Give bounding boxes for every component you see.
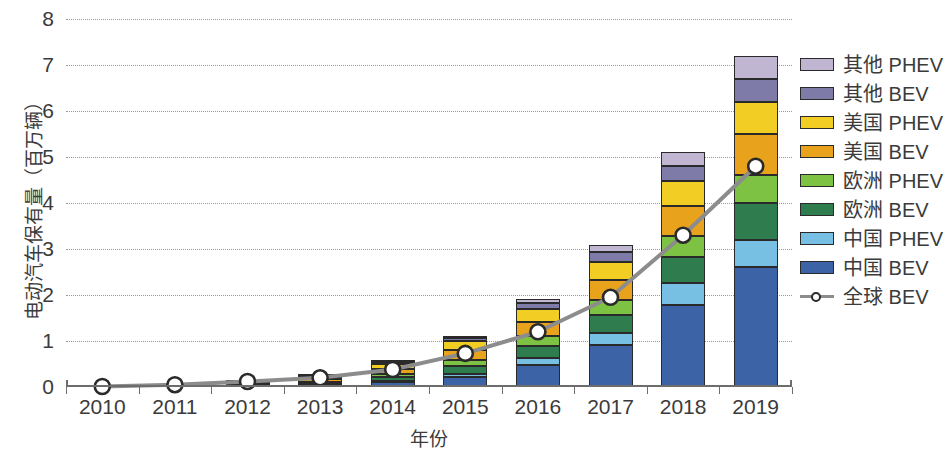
x-axis-tick-label: 2017 (574, 396, 647, 417)
y-axis-tick-label: 6 (14, 100, 54, 121)
legend-color-swatch (800, 203, 834, 216)
y-axis-tick-label: 3 (14, 238, 54, 259)
y-axis-tick-label: 8 (14, 8, 54, 29)
legend-item[interactable]: 其他 BEV (800, 79, 944, 108)
legend-label: 中国 PHEV (843, 229, 943, 249)
line-marker[interactable] (676, 228, 691, 243)
legend-item[interactable]: 欧洲 PHEV (800, 166, 944, 195)
legend-color-swatch (800, 145, 834, 158)
y-axis-tick-label: 5 (14, 146, 54, 167)
line-marker[interactable] (313, 370, 328, 385)
x-axis-tick-label: 2016 (502, 396, 575, 417)
x-axis-title: 年份 (66, 424, 792, 451)
line-marker[interactable] (748, 159, 763, 174)
line-marker[interactable] (530, 324, 545, 339)
y-axis-tick-label: 2 (14, 284, 54, 305)
x-axis-tick-label: 2011 (139, 396, 212, 417)
x-axis-tick-label: 2015 (429, 396, 502, 417)
x-axis-tick (502, 387, 503, 394)
x-axis-tick (211, 387, 212, 394)
legend-item[interactable]: 美国 BEV (800, 137, 944, 166)
legend-color-swatch (800, 261, 834, 274)
y-axis-tick-label: 0 (14, 376, 54, 397)
legend-label: 全球 BEV (843, 287, 929, 307)
legend-item[interactable]: 美国 PHEV (800, 108, 944, 137)
line-marker[interactable] (458, 346, 473, 361)
global-bev-line-overlay (66, 19, 792, 387)
y-axis-tick-label: 4 (14, 192, 54, 213)
legend-label: 美国 BEV (843, 142, 929, 162)
chart-legend: 其他 PHEV其他 BEV美国 PHEV美国 BEV欧洲 PHEV欧洲 BEV中… (800, 50, 944, 311)
x-axis-tick (574, 387, 575, 394)
x-axis-tick (719, 387, 720, 394)
x-axis-tick-label: 2018 (647, 396, 720, 417)
legend-color-swatch (800, 87, 834, 100)
x-axis-tick (429, 387, 430, 394)
x-axis-right-cap (790, 380, 792, 387)
plot-area (66, 19, 792, 387)
legend-label: 欧洲 PHEV (843, 171, 943, 191)
legend-color-swatch (800, 116, 834, 129)
legend-color-swatch (800, 174, 834, 187)
x-axis-tick-label: 2012 (211, 396, 284, 417)
legend-item[interactable]: 欧洲 BEV (800, 195, 944, 224)
legend-item[interactable]: 全球 BEV (800, 282, 944, 311)
x-axis-left-cap (66, 380, 68, 387)
x-axis-tick (647, 387, 648, 394)
x-axis-tick (792, 387, 793, 394)
legend-label: 其他 PHEV (843, 55, 943, 75)
global-bev-line (102, 166, 755, 386)
x-axis-tick (356, 387, 357, 394)
legend-item[interactable]: 中国 PHEV (800, 224, 944, 253)
line-marker[interactable] (603, 290, 618, 305)
x-axis-tick (139, 387, 140, 394)
legend-line-marker-icon (800, 290, 834, 303)
legend-color-swatch (800, 232, 834, 245)
legend-item[interactable]: 中国 BEV (800, 253, 944, 282)
x-axis-tick-label: 2013 (284, 396, 357, 417)
x-axis-tick-label: 2014 (356, 396, 429, 417)
line-marker[interactable] (385, 362, 400, 377)
x-axis-tick (284, 387, 285, 394)
x-axis-tick-label: 2019 (719, 396, 792, 417)
legend-label: 美国 PHEV (843, 113, 943, 133)
x-axis-tick-label: 2010 (66, 396, 139, 417)
legend-label: 其他 BEV (843, 84, 929, 104)
y-axis-tick-label: 1 (14, 330, 54, 351)
legend-item[interactable]: 其他 PHEV (800, 50, 944, 79)
legend-label: 中国 BEV (843, 258, 929, 278)
legend-label: 欧洲 BEV (843, 200, 929, 220)
y-axis-tick-label: 7 (14, 54, 54, 75)
legend-color-swatch (800, 58, 834, 71)
x-axis-tick (66, 387, 67, 394)
